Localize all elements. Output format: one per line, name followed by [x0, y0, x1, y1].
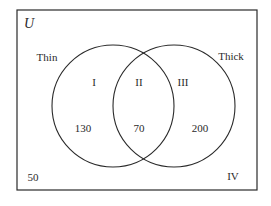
- region-ii-label: II: [135, 77, 142, 88]
- thin-only-count: 130: [75, 123, 92, 134]
- intersection-count: 70: [134, 123, 145, 134]
- thick-only-count: 200: [192, 123, 209, 134]
- thick-set-label: Thick: [218, 51, 244, 62]
- universe-rectangle: [17, 10, 257, 190]
- region-iv-label: IV: [227, 171, 239, 182]
- outside-count: 50: [28, 172, 39, 183]
- thin-set-label: Thin: [37, 52, 58, 63]
- region-iii-label: III: [178, 77, 189, 88]
- universe-label: U: [24, 17, 34, 31]
- region-i-label: I: [92, 77, 96, 88]
